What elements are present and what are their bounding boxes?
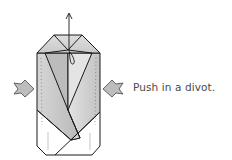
push-arrow-left-icon (14, 80, 34, 97)
instruction-caption: Push in a divot. (133, 81, 215, 93)
paper-model (37, 35, 100, 155)
origami-diagram (0, 0, 232, 160)
push-arrow-right-icon (103, 80, 123, 97)
